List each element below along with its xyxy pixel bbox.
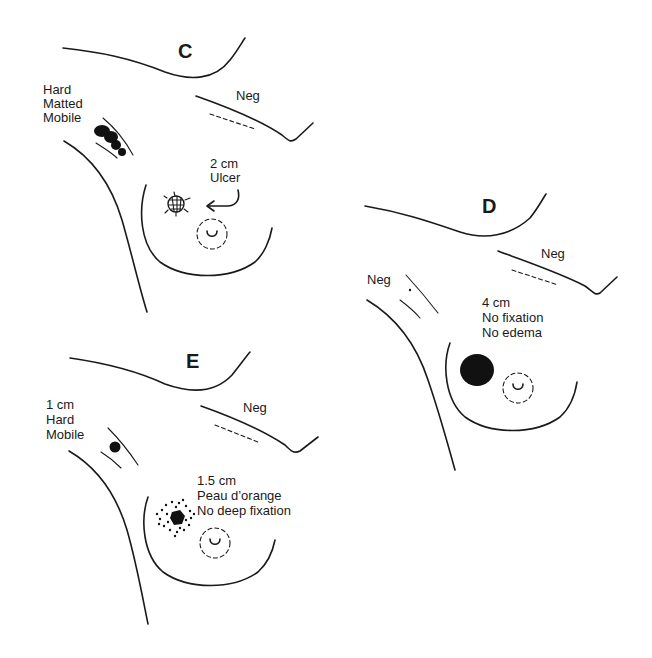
panel-c-contralateral-note: Neg: [236, 88, 260, 103]
panel-e-contralateral-note: Neg: [243, 400, 267, 415]
panel-c-chest-wall-outline: [64, 141, 147, 312]
panel-d-contralateral-fold: [512, 270, 558, 285]
panel-d-axilla-line-inner: [400, 300, 420, 318]
panel-e: E Neg 1 cm Hard Mobile 1.5 cm Peau d’ora…: [46, 350, 318, 624]
panel-d-chest-wall-outline: [367, 300, 455, 470]
panel-e-chest-wall-outline: [69, 451, 148, 624]
panel-e-shoulder-outline: [70, 352, 250, 390]
panel-d-solid-mass-lesion: [460, 354, 494, 386]
panel-d-shoulder-outline: [365, 194, 546, 236]
panel-e-lesion-note-1: 1.5 cm: [197, 473, 236, 488]
panel-d: D Neg Neg 4 cm No fixation No edema: [365, 194, 617, 470]
panel-d-lesion-note-3: No edema: [482, 325, 543, 340]
panel-e-axilla-line-inner: [101, 452, 121, 468]
panel-d-lesion-note-1: 4 cm: [482, 295, 510, 310]
panel-d-axilla-note: Neg: [367, 272, 391, 287]
breast-exam-diagram: C Neg Hard Matted Mobile 2 cm Ulcer: [0, 0, 652, 658]
panel-e-letter: E: [186, 350, 199, 372]
panel-d-breast-outline: [446, 343, 577, 431]
panel-c-ulcer-lesion: [164, 192, 190, 216]
panel-c-nipple: [197, 219, 227, 249]
panel-e-nipple: [200, 528, 230, 558]
panel-e-axilla-note-1: 1 cm: [46, 397, 74, 412]
panel-c-axilla-note-2: Matted: [43, 96, 83, 111]
panel-d-contralateral-note: Neg: [541, 246, 565, 261]
panel-c-lesion-note-1: 2 cm: [210, 156, 238, 171]
panel-d-nipple: [503, 373, 533, 403]
panel-e-contralateral-fold: [215, 425, 258, 442]
panel-c-shoulder-outline: [63, 38, 245, 77]
panel-e-peau-d-orange-lesion: [156, 499, 195, 537]
panel-e-lesion-note-2: Peau d’orange: [197, 488, 282, 503]
panel-c-matted-nodes: [94, 125, 126, 156]
panel-d-axilla-dot: [409, 289, 411, 291]
panel-c-axilla-note-1: Hard: [43, 82, 71, 97]
panel-d-lesion-note-2: No fixation: [482, 310, 543, 325]
panel-e-lesion-note-3: No deep fixation: [197, 503, 291, 518]
panel-c-letter: C: [178, 40, 192, 62]
panel-c-arrow: [208, 190, 239, 206]
panel-e-axilla-note-2: Hard: [46, 412, 74, 427]
panel-e-axilla-note-3: Mobile: [46, 427, 84, 442]
panel-d-axilla-line-outer: [406, 275, 438, 313]
panel-e-lymph-node: [110, 442, 121, 453]
panel-c: C Neg Hard Matted Mobile 2 cm Ulcer: [43, 38, 313, 312]
panel-c-lesion-note-2: Ulcer: [210, 170, 241, 185]
panel-c-axilla-note-3: Mobile: [43, 110, 81, 125]
panel-d-letter: D: [482, 195, 496, 217]
